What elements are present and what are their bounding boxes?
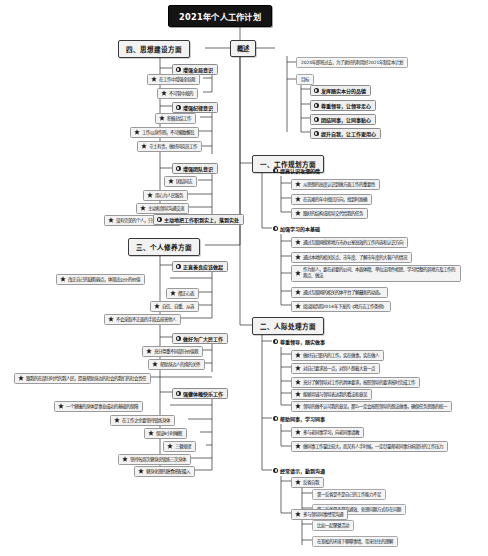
work-plan-item-label: 作为新人，要在必要的公司、本面体精、单位法用件相思、学习给整的其地方及工作的观点… bbox=[303, 267, 457, 279]
interpersonal-item[interactable]: 对自己要求高一点，对别人想着大意一点 bbox=[291, 363, 380, 374]
star-icon bbox=[295, 270, 301, 276]
branch-overview[interactable]: 概述 bbox=[230, 40, 256, 57]
numbered-disc-icon bbox=[273, 339, 278, 344]
ideology-item[interactable]: 主动和领导沟通交流 bbox=[136, 203, 189, 214]
branch-ideology-label: 四、思想建设方面 bbox=[126, 44, 182, 54]
interpersonal-group-1[interactable]: 尊重领导，踏实做事 bbox=[271, 337, 329, 346]
interpersonal-subitem-label: 第一反省是不是自己的工作能力不足 bbox=[317, 492, 381, 497]
work-plan-group-1[interactable]: 提高认识攻潮的情 bbox=[271, 166, 324, 175]
root-node[interactable]: 2021年个人工作计划 bbox=[168, 5, 272, 27]
work-plan-item[interactable]: 从思想的高度认识到做方面工作的重要性 bbox=[291, 179, 380, 190]
star-icon bbox=[154, 303, 160, 309]
numbered-disc-icon bbox=[273, 226, 278, 231]
overview-goal-4[interactable]: 提升自我，让工作更用心 bbox=[310, 128, 381, 139]
work-plan-item[interactable]: 通过互联网搜索地方市办公室高效的工作内容和认识方向 bbox=[291, 237, 408, 248]
cultivation-item[interactable]: 不会采取不正面的手段去损害他人 bbox=[104, 314, 181, 325]
star-icon bbox=[295, 303, 301, 309]
star-icon bbox=[141, 143, 147, 149]
cultivation-item[interactable]: 跟我的在部分时代的我人民，愿意帮助身边的社会的我们的社会责任 bbox=[14, 373, 151, 384]
interpersonal-item-label: 能够坦诚与领导表达我的看法和意见 bbox=[303, 392, 367, 398]
cultivation-item[interactable]: 充分尊重不同部分价值观 bbox=[142, 346, 203, 357]
interpersonal-subitem[interactable]: 第一反省是不是自己的工作能力不足 bbox=[312, 489, 386, 500]
interpersonal-subgroup[interactable]: 多与领导同事经常沟通 bbox=[291, 509, 348, 520]
work-plan-item-label: 阅读国务院2014年下发的《地方志工作条例》 bbox=[303, 304, 386, 310]
cultivation-group-2[interactable]: 做好为广大民工作 bbox=[172, 333, 228, 344]
star-icon bbox=[295, 352, 301, 358]
ideology-item[interactable]: 守土有责，做好同岗员工作 bbox=[137, 141, 202, 152]
interpersonal-item[interactable]: 领导的做不认可我的意见，那么一定会按照领导的想法做事，确保任务思路的统一 bbox=[291, 401, 452, 412]
root-label: 2021年个人工作计划 bbox=[179, 10, 261, 22]
star-icon bbox=[295, 196, 301, 202]
numbered-disc-icon bbox=[157, 217, 162, 222]
cultivation-item[interactable]: 三餐规律 bbox=[163, 441, 196, 452]
interpersonal-item[interactable]: 做同事工作量比较大，而又有人手时候，一定尽量帮老同事分担部分的工作压力 bbox=[291, 441, 448, 452]
ideology-item[interactable]: 在工作中增强全局观 bbox=[147, 74, 200, 85]
ideology-item[interactable]: 工作以身作则，不可懒散懈怠 bbox=[130, 127, 199, 138]
star-icon bbox=[146, 348, 152, 354]
branch-self-cultivation[interactable]: 三、个人修养方面 bbox=[128, 238, 200, 256]
ideology-item[interactable]: 团结同志 bbox=[164, 176, 197, 187]
cultivation-item[interactable]: 自信、自重、从容 bbox=[150, 301, 199, 312]
work-plan-group-2[interactable]: 加强学习的本基础 bbox=[271, 224, 324, 233]
interpersonal-item[interactable]: 能够坦诚与领导表达我的看法和意见 bbox=[291, 389, 372, 400]
ideology-group-2[interactable]: 增强纪律意识 bbox=[172, 102, 218, 113]
interpersonal-subitem[interactable]: 在宽松的环境下聊聊事情、带来往往的理解 bbox=[312, 536, 398, 547]
star-icon bbox=[295, 239, 301, 245]
cultivation-item[interactable]: 在工作之余要坚持锻炼身体 bbox=[110, 415, 175, 426]
cultivation-item[interactable]: 健身化理的膳食搭配摄入 bbox=[134, 466, 195, 477]
interpersonal-group-1-label: 尊重领导，踏实做事 bbox=[280, 338, 325, 345]
star-icon bbox=[147, 192, 153, 198]
work-plan-item[interactable]: 跟好的结构或指导交代给我的任务 bbox=[291, 208, 368, 219]
cultivation-item[interactable]: 坚持每周次健身房锻炼三次身体 bbox=[118, 454, 191, 465]
star-icon bbox=[295, 181, 301, 187]
overview-goal-group[interactable]: 目标 bbox=[296, 74, 314, 85]
branch-ideology[interactable]: 四、思想建设方面 bbox=[118, 40, 190, 58]
star-icon bbox=[295, 403, 301, 409]
cultivation-item-label: 保证8小时睡眠 bbox=[156, 431, 183, 437]
cultivation-item[interactable]: 保证8小时睡眠 bbox=[144, 428, 187, 439]
star-icon bbox=[114, 417, 120, 423]
star-icon bbox=[152, 361, 158, 367]
work-plan-item[interactable]: 通过互联网的相关的体平台了解最新的动态。 bbox=[291, 287, 388, 298]
ideology-group-4[interactable]: 主动地把工作职到实上，落到实处 bbox=[153, 214, 244, 225]
cultivation-item[interactable]: 帮助身边人的缘的关怀 bbox=[148, 359, 205, 370]
ideology-item[interactable]: 积极总结工作 bbox=[155, 113, 196, 124]
star-icon bbox=[295, 511, 301, 517]
cultivation-group-1[interactable]: 正直善良应该做起 bbox=[172, 261, 228, 272]
work-plan-item[interactable]: 在苦难的年中找回方向，找到时准确 bbox=[291, 194, 372, 205]
overview-goal-2[interactable]: 尊重领导，让领导走心 bbox=[310, 100, 376, 111]
star-icon bbox=[295, 254, 301, 260]
branch-interpersonal[interactable]: 二、人际处理方面 bbox=[252, 317, 324, 335]
interpersonal-subitem[interactable]: 比如一起聚餐活动 bbox=[312, 520, 354, 531]
interpersonal-item[interactable]: 多与老同事学习，向老同事请教 bbox=[291, 427, 364, 438]
cultivation-item[interactable]: 摆正心态 bbox=[166, 288, 199, 299]
overview-goal-3[interactable]: 团结同事，让同事贴心 bbox=[310, 114, 376, 125]
overview-intro-text: 2020年即将过去，为了更好的利用好2021年制定本计划 bbox=[301, 60, 403, 65]
interpersonal-subgroup[interactable]: 反省自我 bbox=[291, 477, 324, 488]
numbered-disc-icon bbox=[273, 168, 278, 173]
star-icon bbox=[295, 379, 301, 385]
interpersonal-item[interactable]: 做好自己职内的工作，实在做事，实在做人 bbox=[291, 350, 384, 361]
interpersonal-group-3[interactable]: 经常请示，勤到沟通 bbox=[271, 466, 329, 475]
ideology-group-3[interactable]: 增强团队意识 bbox=[172, 163, 218, 174]
work-plan-item[interactable]: 通过本地的相关区点、市年度、了解市年度的大客户的情况 bbox=[291, 252, 412, 263]
work-plan-item[interactable]: 作为新人，要在必要的公司、本面体精、单位法用件相思、学习给整的其地方及工作的观点… bbox=[291, 265, 461, 282]
interpersonal-subgroup-label: 反省自我 bbox=[303, 480, 319, 486]
work-plan-item-label: 跟好的结构或指导交代给我的任务 bbox=[303, 211, 363, 217]
cultivation-item[interactable]: 改正自己的缺陷弱点，体现出公仆的价值 bbox=[56, 274, 145, 285]
interpersonal-group-2[interactable]: 帮助同事，学习同事 bbox=[271, 414, 329, 423]
ideology-item[interactable]: 用心为人民服务 bbox=[143, 190, 188, 201]
star-icon bbox=[159, 115, 165, 121]
interpersonal-item[interactable]: 充分了解领导对工作的具体要求，按照领导的要求按时完成工作 bbox=[291, 377, 420, 388]
cultivation-item-label: 健身化理的膳食搭配摄入 bbox=[146, 469, 190, 475]
overview-goal-4-label: 提升自我，让工作更用心 bbox=[321, 130, 376, 137]
cultivation-item[interactable]: 一个健康的身体是事业成功的基础的保障 bbox=[54, 401, 143, 412]
branch-overview-label: 概述 bbox=[237, 44, 249, 53]
numbered-disc-icon bbox=[176, 67, 181, 72]
overview-intro[interactable]: 2020年即将过去，为了更好的利用好2021年制定本计划 bbox=[296, 57, 408, 68]
branch-interpersonal-label: 二、人际处理方面 bbox=[260, 321, 316, 331]
overview-goal-1[interactable]: 发挥踏实本分的品德 bbox=[310, 85, 371, 96]
work-plan-item[interactable]: 阅读国务院2014年下发的《地方志工作条例》 bbox=[291, 301, 391, 312]
ideology-item[interactable]: 不可管中规的 bbox=[157, 88, 198, 99]
cultivation-group-3[interactable]: 强健体魄快乐工作 bbox=[172, 388, 228, 399]
